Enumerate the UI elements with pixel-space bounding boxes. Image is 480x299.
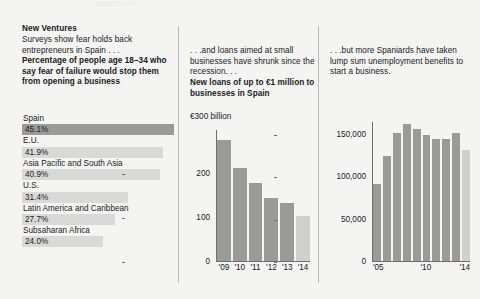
x-tick-label: '12 bbox=[264, 262, 278, 274]
bar-value-label: 40.9% bbox=[25, 169, 48, 180]
lump-sum-benefits-bar-chart: 150,000 100,000 50,000 0 bbox=[330, 112, 472, 284]
x-tick-label: '11 bbox=[249, 262, 263, 274]
x-tick-label: '05 bbox=[373, 262, 384, 274]
y-tick-label: 100,000 bbox=[336, 173, 366, 181]
plot-area: 100 200 0 '09 '10 '11 bbox=[216, 130, 310, 262]
bar-value-label: 45.1% bbox=[25, 124, 48, 135]
bar bbox=[233, 168, 247, 261]
bar bbox=[249, 183, 263, 261]
bar bbox=[413, 129, 421, 261]
list-item: Spain 45.1% bbox=[22, 114, 174, 135]
x-tick-label: '09 bbox=[217, 262, 231, 274]
bar bbox=[296, 216, 310, 261]
x-tick-spacer bbox=[386, 262, 393, 274]
bar-category-label: Subsaharan Africa bbox=[22, 226, 174, 236]
list-item: Latin America and Caribbean 27.7% bbox=[22, 204, 174, 225]
column-divider-2 bbox=[318, 26, 319, 283]
bar: 45.1% bbox=[22, 124, 174, 135]
x-axis-labels: '09 '10 '11 '12 '13 '14 bbox=[217, 262, 310, 274]
bar-category-label: Asia Pacific and South Asia bbox=[22, 159, 174, 169]
x-tick-spacer bbox=[412, 262, 419, 274]
y-tick-label: 150,000 bbox=[336, 131, 366, 139]
bar bbox=[217, 140, 231, 261]
bar-category-label: U.S. bbox=[22, 181, 174, 191]
page-title: New Ventures bbox=[22, 24, 77, 35]
x-tick-spacer bbox=[394, 262, 401, 274]
bar-value-label: 24.0% bbox=[25, 236, 48, 247]
list-item: Asia Pacific and South Asia 40.9% bbox=[22, 159, 174, 180]
bar: 24.0% bbox=[22, 236, 103, 247]
list-item: E.U. 41.9% bbox=[22, 136, 174, 157]
y-tick-label: 0 bbox=[361, 258, 366, 266]
bar-value-label: 41.9% bbox=[25, 147, 48, 158]
left-panel-lede: Surveys show fear holds back entrepreneu… bbox=[22, 35, 174, 56]
x-tick-spacer bbox=[442, 262, 449, 274]
bar bbox=[432, 139, 440, 261]
mid-panel-lede: . . .and loans aimed at small businesses… bbox=[190, 46, 316, 78]
bar-category-label: E.U. bbox=[22, 136, 174, 146]
x-tick-spacer bbox=[433, 262, 440, 274]
plot-area: 150,000 100,000 50,000 0 bbox=[372, 122, 470, 262]
bar bbox=[452, 133, 460, 261]
left-panel-subhead: Percentage of people age 18–34 who say f… bbox=[22, 56, 178, 88]
right-panel-lede: . . .but more Spaniards have taken lump … bbox=[330, 46, 472, 78]
bar-group bbox=[217, 130, 310, 261]
y-tick-label: 50,000 bbox=[341, 216, 366, 224]
bar bbox=[423, 135, 431, 261]
bar bbox=[393, 133, 401, 261]
bar: 41.9% bbox=[22, 147, 163, 158]
bar: 40.9% bbox=[22, 169, 160, 180]
x-tick-label: '10 bbox=[421, 262, 432, 274]
bar-category-label: Spain bbox=[22, 114, 174, 124]
bar-group bbox=[373, 122, 470, 261]
bar: 27.7% bbox=[22, 214, 115, 225]
bar bbox=[383, 156, 391, 261]
y-axis-top-label: €300 billion bbox=[190, 112, 231, 121]
y-tick-label: 200 bbox=[196, 170, 210, 178]
bar bbox=[442, 139, 450, 261]
y-tick-label: 0 bbox=[205, 258, 210, 266]
column-divider-1 bbox=[178, 26, 179, 283]
tick-mark bbox=[274, 135, 277, 136]
bar-value-label: 31.4% bbox=[25, 192, 48, 203]
scan-artifact bbox=[96, 1, 216, 6]
fear-of-failure-bar-chart: Spain 45.1% E.U. 41.9% Asia Pacific and … bbox=[22, 114, 174, 248]
x-tick-spacer bbox=[451, 262, 458, 274]
list-item: U.S. 31.4% bbox=[22, 181, 174, 202]
bar bbox=[373, 184, 381, 261]
tick-mark bbox=[122, 174, 125, 175]
y-tick-label: 100 bbox=[196, 214, 210, 222]
bar bbox=[462, 150, 470, 261]
tick-mark bbox=[122, 262, 125, 263]
bar-category-label: Latin America and Caribbean bbox=[22, 204, 174, 214]
tick-mark bbox=[274, 177, 277, 178]
bar bbox=[264, 198, 278, 261]
bar bbox=[403, 124, 411, 261]
x-axis-labels: '05 '10 '14 bbox=[373, 262, 470, 274]
bar bbox=[280, 203, 294, 261]
new-loans-bar-chart: €300 billion 100 200 0 bbox=[190, 112, 312, 284]
bar: 31.4% bbox=[22, 192, 128, 203]
x-tick-spacer bbox=[403, 262, 410, 274]
x-tick-label: '10 bbox=[233, 262, 247, 274]
list-item: Subsaharan Africa 24.0% bbox=[22, 226, 174, 247]
infographic-page: New Ventures Surveys show fear holds bac… bbox=[0, 0, 480, 299]
tick-mark bbox=[274, 262, 277, 263]
tick-mark bbox=[122, 218, 125, 219]
tick-mark bbox=[274, 220, 277, 221]
bar-value-label: 27.7% bbox=[25, 214, 48, 225]
mid-panel-subhead: New loans of up to €1 million to busines… bbox=[190, 78, 318, 99]
x-tick-label: '14 bbox=[459, 262, 470, 274]
x-tick-label: '14 bbox=[296, 262, 310, 274]
x-tick-label: '13 bbox=[280, 262, 294, 274]
